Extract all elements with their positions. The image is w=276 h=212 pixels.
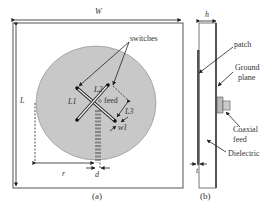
l-label: L	[20, 97, 24, 105]
dielectric-substrate	[199, 23, 216, 188]
coaxial-feed-outer	[217, 97, 223, 113]
l2-label: L2	[94, 86, 102, 94]
l3-label: L3	[125, 108, 133, 116]
caption-b: (b)	[200, 192, 211, 201]
ground-plane-pointer	[218, 72, 233, 86]
panel-b	[190, 21, 240, 188]
feed-label: feed	[104, 97, 118, 105]
w1-label: w1	[118, 124, 127, 132]
l1-label: L1	[68, 98, 76, 106]
feed-point	[99, 100, 101, 102]
w-label: W	[95, 8, 102, 16]
caption-a: (a)	[92, 192, 102, 201]
switch-dot	[75, 86, 79, 90]
ground-plane	[215, 23, 217, 188]
t-label: t	[196, 167, 198, 175]
coaxial-label-2: feed	[233, 136, 247, 144]
patch-strip	[197, 50, 200, 165]
panel-a	[13, 20, 183, 188]
coaxial-feed-inner	[223, 101, 230, 110]
switch-dot	[106, 83, 110, 87]
r-label: r	[62, 170, 65, 178]
dielectric-label: Dielectric	[228, 150, 260, 158]
ground-plane-label-1: Ground	[235, 64, 259, 72]
patch-label: patch	[234, 41, 251, 49]
ground-plane-label-2: plane	[238, 74, 255, 82]
coaxial-label-1: Coaxial	[233, 126, 258, 134]
switch-dot	[75, 118, 79, 122]
antenna-diagram	[0, 0, 276, 212]
switches-label: switches	[130, 35, 158, 43]
h-label: h	[205, 11, 209, 19]
d-label: d	[95, 171, 99, 179]
switch-dot	[113, 119, 117, 123]
